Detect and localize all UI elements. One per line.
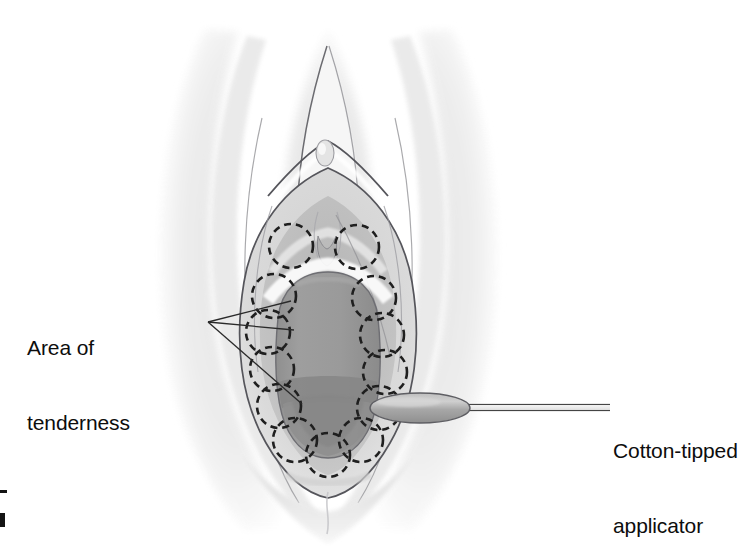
applicator-shaft [465,404,610,411]
clipped-caption-fragment-stem [0,513,5,527]
cotton-tipped-applicator-line-2: applicator [613,513,738,538]
area-of-tenderness-label: Area of tenderness [27,285,130,485]
cotton-tipped-applicator-line-1: Cotton-tipped [613,438,738,463]
area-of-tenderness-line-1: Area of [27,335,130,360]
clipped-caption-fragment-dash [0,490,7,493]
clitoris-highlight [318,143,326,155]
cotton-tipped-applicator-label: Cotton-tipped applicator [613,388,738,552]
area-of-tenderness-line-2: tenderness [27,410,130,435]
cotton-tipped-applicator [370,393,610,423]
applicator-tip-highlight [377,397,441,407]
clitoris [316,140,334,166]
